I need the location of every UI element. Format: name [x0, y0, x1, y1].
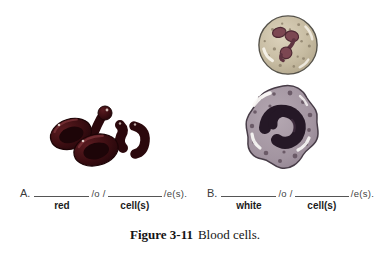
figure-number: Figure 3-11: [130, 227, 193, 242]
blank-hint-word: cell(s): [295, 200, 349, 211]
rbc-highlight: [58, 124, 61, 127]
blank-hint-word: white: [221, 200, 276, 211]
rbc-peanut-cell: [119, 122, 123, 148]
answer-blank: [108, 193, 162, 197]
answer-blank: [221, 193, 276, 197]
answer-blank: [34, 193, 89, 197]
suffix-separator: /e(s).: [351, 188, 374, 199]
word-building-exercise-a: A. /o / /e(s). red cell(s): [20, 187, 187, 211]
rbc-highlight: [82, 140, 85, 143]
red-blood-cells-illustration: [45, 85, 170, 175]
white-blood-cell-top-illustration: [255, 13, 321, 79]
blank-hint-word: cell(s): [108, 200, 162, 211]
exercise-letter: A.: [20, 187, 30, 199]
rbc-crescent-cell: [134, 123, 145, 154]
exercise-letter: B.: [207, 187, 217, 199]
figure-caption: Figure 3-11Blood cells.: [0, 227, 390, 243]
figure-title: Blood cells.: [198, 227, 260, 242]
answer-blank: [295, 193, 349, 197]
wbc-cytoplasm: [246, 86, 318, 169]
word-building-exercise-b: B. /o / /e(s). white cell(s): [207, 187, 374, 211]
white-blood-cell-bottom-illustration: [240, 82, 324, 174]
blank-hint-word: red: [34, 200, 89, 211]
suffix-separator: /e(s).: [164, 188, 187, 199]
combining-vowel-separator: /o /: [278, 188, 292, 199]
combining-vowel-separator: /o /: [91, 188, 105, 199]
